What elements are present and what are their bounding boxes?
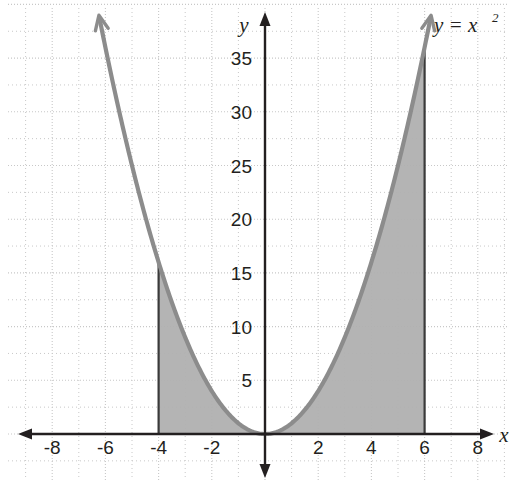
x-tick-label: 6 <box>419 437 430 458</box>
equation-label: y = x <box>432 13 478 37</box>
x-tick-label: -4 <box>150 437 167 458</box>
y-tick-label: 25 <box>231 156 252 177</box>
y-tick-label: 35 <box>231 48 252 69</box>
x-tick-label: 4 <box>366 437 377 458</box>
x-axis-label: x <box>498 423 509 447</box>
x-tick-label: -2 <box>203 437 220 458</box>
parabola-plot: -8-6-4-22468 5101520253035 y x y = x 2 <box>0 0 516 488</box>
x-tick-label: -8 <box>44 437 61 458</box>
y-tick-label: 10 <box>231 317 252 338</box>
equation-label-exponent: 2 <box>492 10 499 25</box>
y-tick-label: 20 <box>231 209 252 230</box>
x-tick-label: -6 <box>97 437 114 458</box>
plot-background <box>0 0 516 488</box>
y-axis-label: y <box>237 13 249 37</box>
graph-figure: -8-6-4-22468 5101520253035 y x y = x 2 <box>0 0 516 488</box>
x-tick-label: 8 <box>473 437 484 458</box>
y-tick-label: 30 <box>231 102 252 123</box>
x-tick-label: 2 <box>313 437 324 458</box>
y-tick-label: 5 <box>241 370 252 391</box>
y-tick-label: 15 <box>231 263 252 284</box>
